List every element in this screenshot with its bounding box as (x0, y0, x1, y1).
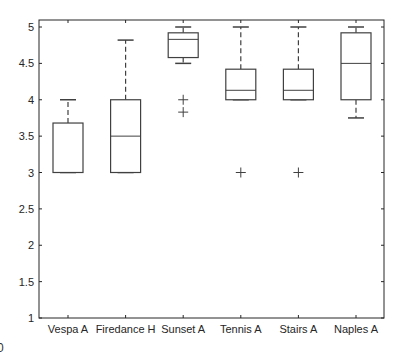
x-tick-label: Vespa A (48, 323, 89, 335)
box-tennis-a (226, 27, 256, 178)
x-tick-label: Firedance H (96, 323, 156, 335)
plot-frame (39, 20, 384, 318)
iqr-box (168, 33, 198, 58)
y-tick-label: 2 (28, 239, 34, 251)
x-tick-label: Sunset A (161, 323, 206, 335)
box-firedance-h (111, 40, 141, 172)
iqr-box (341, 33, 371, 100)
box-vespa-a (53, 100, 83, 173)
cropped-caption-glyph: 0 (0, 341, 4, 353)
box-sunset-a (168, 27, 198, 117)
x-tick-label: Naples A (334, 323, 379, 335)
y-tick-label: 1 (28, 312, 34, 324)
iqr-box (283, 69, 313, 100)
boxes-layer (53, 27, 371, 178)
y-tick-label: 4.5 (19, 57, 34, 69)
x-axis: Vespa AFiredance HSunset ATennis AStairs… (48, 20, 379, 335)
y-tick-label: 4 (28, 94, 34, 106)
box-stairs-a (283, 27, 313, 178)
y-tick-label: 3 (28, 167, 34, 179)
x-tick-label: Stairs A (279, 323, 318, 335)
y-tick-label: 5 (28, 21, 34, 33)
boxplot-chart: 11.522.533.544.55 Vespa AFiredance HSuns… (0, 0, 401, 353)
y-tick-label: 3.5 (19, 130, 34, 142)
y-tick-label: 1.5 (19, 276, 34, 288)
box-naples-a (341, 27, 371, 118)
iqr-box (53, 123, 83, 172)
plot-area (39, 20, 384, 318)
iqr-box (226, 69, 256, 100)
x-tick-label: Tennis A (220, 323, 262, 335)
y-tick-label: 2.5 (19, 203, 34, 215)
